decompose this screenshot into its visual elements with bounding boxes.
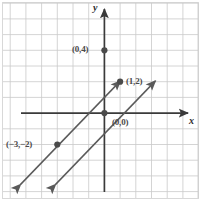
point-0-0 xyxy=(101,110,107,116)
axis-label-y: y xyxy=(93,3,97,13)
point-neg3-neg2 xyxy=(54,141,60,147)
point-label-0-4: (0,4) xyxy=(72,45,88,54)
graph-figure: (0,4) (1,2) (0,0) (−3,−2) y x xyxy=(0,0,201,202)
axis-label-x: x xyxy=(189,116,194,126)
point-label-neg3-neg2: (−3,−2) xyxy=(6,140,32,149)
point-0-4 xyxy=(101,47,107,53)
point-label-0-0: (0,0) xyxy=(112,118,128,127)
point-1-2 xyxy=(117,79,123,85)
coordinate-plane-svg xyxy=(0,0,201,202)
point-label-1-2: (1,2) xyxy=(126,77,142,86)
